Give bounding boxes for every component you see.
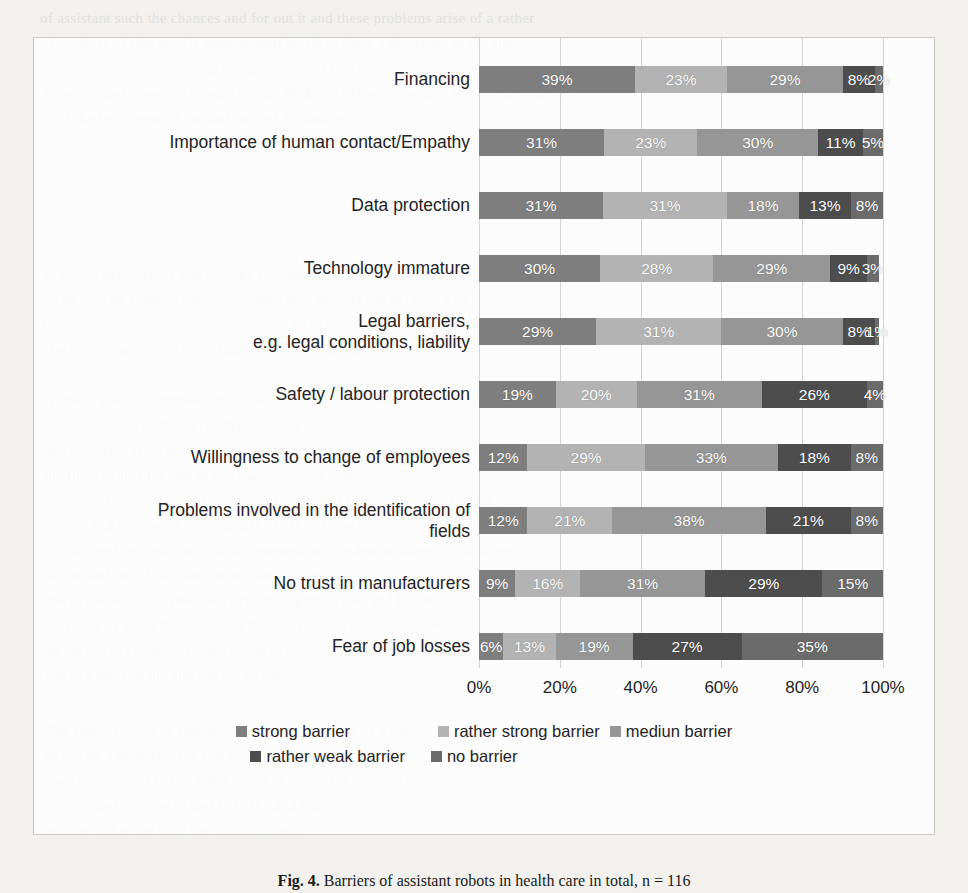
segment-value-label: 16% [532, 575, 563, 593]
legend-item[interactable]: mediun barrier [610, 722, 732, 741]
bar-segment: 31% [603, 192, 727, 219]
bar-segment: 31% [580, 570, 705, 597]
segment-value-label: 19% [579, 638, 610, 656]
category-label: No trust in manufacturers [34, 573, 479, 593]
bar-segment: 28% [600, 255, 713, 282]
segment-value-label: 28% [641, 260, 672, 278]
bar-segment: 9% [479, 570, 515, 597]
x-axis-tick: 100% [861, 678, 904, 698]
legend-label: mediun barrier [626, 722, 732, 741]
bar-segment: 19% [556, 633, 633, 660]
bar-segment: 38% [612, 507, 766, 534]
gridline [883, 38, 884, 668]
category-label: Safety / labour protection [34, 384, 479, 404]
bar-segment: 31% [596, 318, 721, 345]
x-axis-tick: 40% [624, 678, 658, 698]
segment-value-label: 15% [837, 575, 868, 593]
segment-value-label: 21% [793, 512, 824, 530]
segment-value-label: 30% [524, 260, 555, 278]
bar-segment: 30% [479, 255, 600, 282]
category-label: Willingness to change of employees [34, 447, 479, 467]
bar-segment: 31% [637, 381, 762, 408]
bar-segment: 8% [851, 444, 883, 471]
segment-value-label: 35% [797, 638, 828, 656]
bar-segment: 29% [727, 66, 843, 93]
segment-value-label: 30% [766, 323, 797, 341]
bar-segment: 33% [645, 444, 778, 471]
segment-value-label: 5% [862, 134, 884, 152]
bar-segment: 29% [705, 570, 822, 597]
bar-segment: 29% [479, 318, 596, 345]
legend-item[interactable]: strong barrier [236, 722, 350, 741]
stacked-bar: 31%23%30%11%5% [479, 129, 883, 156]
legend-row-2: rather weak barrierno barrier [250, 747, 517, 766]
legend-swatch-icon [438, 726, 449, 737]
figure-caption-text: Barriers of assistant robots in health c… [324, 872, 691, 889]
bar-segment: 13% [799, 192, 851, 219]
bar-segment: 30% [697, 129, 818, 156]
legend-item[interactable]: rather weak barrier [250, 747, 404, 766]
bar-segment: 4% [867, 381, 883, 408]
category-label: Financing [34, 69, 479, 89]
bar-segment: 18% [778, 444, 851, 471]
chart-legend: strong barrierrather strong barriermediu… [34, 722, 934, 766]
segment-value-label: 2% [868, 71, 890, 89]
segment-value-label: 12% [488, 449, 519, 467]
segment-value-label: 31% [649, 197, 680, 215]
segment-value-label: 29% [571, 449, 602, 467]
bar-segment: 30% [721, 318, 842, 345]
segment-value-label: 21% [554, 512, 585, 530]
plot-area: Financing39%23%29%8%2%Importance of huma… [34, 38, 934, 834]
bar-segment: 21% [766, 507, 851, 534]
bar-segment: 29% [527, 444, 644, 471]
segment-value-label: 31% [526, 134, 557, 152]
segment-value-label: 1% [866, 323, 888, 341]
bar-segment: 23% [604, 129, 697, 156]
segment-value-label: 29% [769, 71, 800, 89]
segment-value-label: 8% [856, 449, 878, 467]
segment-value-label: 31% [684, 386, 715, 404]
segment-value-label: 9% [486, 575, 508, 593]
category-label: Problems involved in the identification … [34, 500, 479, 541]
category-label: Importance of human contact/Empathy [34, 132, 479, 152]
segment-value-label: 27% [672, 638, 703, 656]
bar-segment: 16% [515, 570, 580, 597]
bar-segment: 12% [479, 507, 527, 534]
segment-value-label: 8% [856, 197, 878, 215]
category-label: Legal barriers, e.g. legal conditions, l… [34, 311, 479, 352]
bar-segment: 12% [479, 444, 527, 471]
stacked-bar: 29%31%30%8%1% [479, 318, 883, 345]
figure-caption: Fig. 4. Barriers of assistant robots in … [0, 872, 968, 893]
segment-value-label: 33% [696, 449, 727, 467]
bar-segment: 5% [863, 129, 883, 156]
bar-segment: 21% [527, 507, 612, 534]
legend-swatch-icon [250, 751, 261, 762]
segment-value-label: 12% [488, 512, 519, 530]
segment-value-label: 29% [748, 575, 779, 593]
legend-item[interactable]: no barrier [431, 747, 518, 766]
segment-value-label: 3% [862, 260, 884, 278]
stacked-bar: 31%31%18%13%8% [479, 192, 883, 219]
legend-label: no barrier [447, 747, 518, 766]
category-label: Technology immature [34, 258, 479, 278]
bar-segment: 2% [875, 66, 883, 93]
bar-segment: 15% [822, 570, 883, 597]
bar-segment: 29% [713, 255, 830, 282]
segment-value-label: 9% [837, 260, 859, 278]
segment-value-label: 11% [826, 134, 856, 152]
segment-value-label: 31% [525, 197, 556, 215]
legend-swatch-icon [610, 726, 621, 737]
segment-value-label: 4% [864, 386, 886, 404]
segment-value-label: 31% [627, 575, 658, 593]
segment-value-label: 20% [581, 386, 612, 404]
stacked-bar: 39%23%29%8%2% [479, 66, 883, 93]
x-axis-tick: 20% [543, 678, 577, 698]
legend-item[interactable]: rather strong barrier [438, 722, 600, 741]
bar-segment: 13% [503, 633, 556, 660]
bar-segment: 8% [851, 192, 883, 219]
segment-value-label: 8% [848, 71, 870, 89]
stacked-bar: 19%20%31%26%4% [479, 381, 883, 408]
category-label: Fear of job losses [34, 636, 479, 656]
stacked-bar: 12%29%33%18%8% [479, 444, 883, 471]
segment-value-label: 8% [856, 512, 878, 530]
